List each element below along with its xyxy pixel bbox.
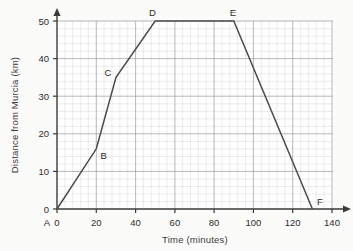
plot-area-background bbox=[57, 21, 333, 209]
y-tick-label-50: 50 bbox=[38, 16, 49, 27]
y-tick-label-0: 0 bbox=[44, 204, 49, 215]
y-tick-label-20: 20 bbox=[38, 128, 49, 139]
y-tick-label-10: 10 bbox=[38, 166, 49, 177]
point-label-b: B bbox=[101, 150, 107, 161]
point-label-f: F bbox=[317, 196, 323, 207]
x-tick-label-100: 100 bbox=[245, 217, 261, 228]
y-tick-label-30: 30 bbox=[38, 91, 49, 102]
x-tick-label-80: 80 bbox=[209, 217, 220, 228]
point-label-e: E bbox=[230, 7, 236, 18]
point-label-a: A bbox=[44, 217, 51, 228]
x-tick-label-0: 0 bbox=[54, 217, 59, 228]
x-axis-title: Time (minutes) bbox=[162, 234, 228, 245]
x-tick-label-120: 120 bbox=[285, 217, 301, 228]
point-label-c: C bbox=[105, 67, 112, 78]
x-tick-label-40: 40 bbox=[130, 217, 141, 228]
point-label-d: D bbox=[149, 7, 156, 18]
y-axis-title: Distance from Murcia (km) bbox=[9, 57, 20, 173]
x-tick-label-140: 140 bbox=[324, 217, 340, 228]
distance-time-chart: 0 20 40 60 80 100 120 140 0 10 20 30 40 … bbox=[0, 0, 353, 251]
y-tick-label-40: 40 bbox=[38, 53, 49, 64]
chart-svg: 0 20 40 60 80 100 120 140 0 10 20 30 40 … bbox=[0, 0, 353, 251]
x-tick-label-20: 20 bbox=[91, 217, 102, 228]
x-tick-label-60: 60 bbox=[170, 217, 181, 228]
